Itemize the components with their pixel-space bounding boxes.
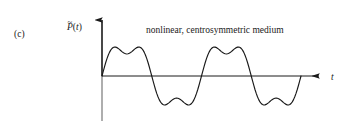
tilde-accent: ~ (67, 18, 72, 27)
waveform-plot (0, 0, 349, 127)
p-symbol: ~P (67, 23, 73, 33)
panel-label: (c) (14, 30, 25, 40)
figure-panel: (c) ~P(t) nonlinear, centrosymmetric med… (0, 0, 349, 127)
plot-caption: nonlinear, centrosymmetric medium (146, 26, 284, 36)
x-axis-label: t (331, 73, 334, 83)
y-axis-label: ~P(t) (67, 23, 82, 33)
close-paren: ) (79, 22, 82, 32)
